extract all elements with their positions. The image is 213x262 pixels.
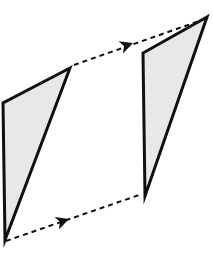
- geometry-diagram: [0, 0, 213, 262]
- figure-canvas: [0, 0, 213, 262]
